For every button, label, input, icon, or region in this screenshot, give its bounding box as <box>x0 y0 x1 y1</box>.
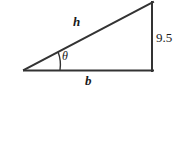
hypotenuse-line <box>24 2 153 70</box>
angle-arc <box>58 52 60 70</box>
triangle-figure: h θ b 9.5 <box>0 0 182 158</box>
angle-label: θ <box>62 50 68 62</box>
base-label: b <box>85 74 92 87</box>
hypotenuse-label: h <box>73 15 80 28</box>
vertical-side-label: 9.5 <box>156 31 172 44</box>
